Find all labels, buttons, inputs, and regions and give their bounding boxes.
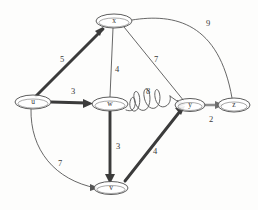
edge-x-y[interactable]	[124, 27, 184, 101]
edge-u-v-line	[31, 109, 96, 188]
node-w-label: w	[107, 99, 113, 108]
node-y[interactable]: y	[175, 99, 205, 112]
weight-label-u-w: 3	[71, 86, 75, 96]
weight-label-u-x: 5	[60, 54, 64, 64]
node-x[interactable]: x	[96, 14, 132, 28]
node-u[interactable]: u	[15, 95, 51, 109]
weight-label-w-y: 8	[146, 86, 150, 96]
graph-svg: x u w y	[0, 0, 258, 210]
edge-x-w[interactable]	[110, 28, 113, 97]
graph-diagram-canvas: x u w y	[0, 0, 258, 210]
weight-label-u-v: 7	[58, 158, 62, 168]
weight-label-x-z: 9	[206, 18, 210, 28]
weight-label-x-y: 7	[154, 54, 158, 64]
edge-x-w-line	[110, 28, 113, 97]
edge-w-v[interactable]	[105, 111, 115, 184]
weight-label-y-z: 2	[209, 114, 213, 124]
node-z[interactable]: z	[218, 98, 250, 112]
edge-u-x[interactable]	[36, 27, 103, 96]
weight-label-layer: 5 3 4 7 9 8 3 4 7 2	[58, 18, 213, 168]
edge-u-w-line	[51, 102, 87, 103]
edge-u-w-arrowhead	[83, 99, 93, 108]
node-w[interactable]: w	[92, 97, 128, 111]
node-v[interactable]: v	[94, 182, 128, 195]
node-v-label: v	[109, 183, 113, 192]
edge-u-v[interactable]	[31, 109, 99, 191]
edge-x-y-line	[124, 27, 184, 101]
edge-u-x-line	[36, 29, 103, 96]
node-y-label: y	[188, 100, 192, 109]
edge-v-y[interactable]	[125, 106, 185, 181]
weight-label-v-y: 4	[153, 146, 158, 156]
node-x-label: x	[112, 16, 116, 25]
weight-label-x-w: 4	[115, 64, 120, 74]
weight-label-w-v: 3	[116, 141, 120, 151]
edge-u-w[interactable]	[51, 99, 93, 108]
node-u-label: u	[31, 97, 35, 106]
